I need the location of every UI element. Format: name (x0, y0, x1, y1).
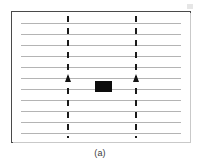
horizontal-rule (21, 78, 181, 79)
figure-root: (a) (0, 0, 200, 164)
horizontal-rule (21, 23, 181, 24)
horizontal-rule (21, 56, 181, 57)
arrow-up-icon-left (65, 74, 71, 82)
horizontal-rule (21, 34, 181, 35)
solid-black-block (95, 81, 112, 92)
figure-caption: (a) (0, 148, 200, 158)
scan-artifact-mark (187, 4, 193, 9)
horizontal-rule (21, 67, 181, 68)
arrow-up-icon-right (133, 74, 139, 82)
horizontal-rule (21, 133, 181, 134)
diagram-frame (11, 11, 191, 143)
horizontal-rule (21, 100, 181, 101)
horizontal-rule (21, 122, 181, 123)
horizontal-rule (21, 111, 181, 112)
horizontal-rule (21, 45, 181, 46)
